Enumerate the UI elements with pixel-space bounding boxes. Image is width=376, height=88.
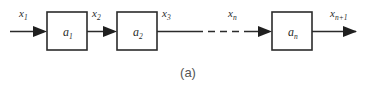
figure-caption: (a) bbox=[180, 65, 196, 80]
arrowhead-into-block-n bbox=[258, 26, 272, 37]
arrowhead-into-block-2 bbox=[103, 26, 117, 37]
signal-label-xn-sub: n bbox=[233, 13, 237, 22]
diagram-canvas: a1 a2 an x1 x2 x3 xn xn+1 (a) bbox=[0, 0, 376, 88]
signal-label-xn1: xn+1 bbox=[329, 7, 347, 22]
arrowhead-into-block-1 bbox=[33, 26, 47, 37]
block-label-n-sub: n bbox=[294, 32, 298, 41]
block-label-2-sub: 2 bbox=[139, 32, 143, 41]
signal-label-x3-sub: 3 bbox=[166, 13, 171, 22]
signal-label-x2-sub: 2 bbox=[97, 13, 101, 22]
signal-label-xn1-sub: n+1 bbox=[335, 13, 348, 22]
signal-label-x1: x1 bbox=[18, 7, 28, 22]
arrowhead-output bbox=[343, 26, 357, 37]
block-label-1-sub: 1 bbox=[69, 32, 73, 41]
signal-label-xn: xn bbox=[227, 7, 237, 22]
signal-label-x3: x3 bbox=[161, 7, 171, 22]
signal-label-x2: x2 bbox=[91, 7, 101, 22]
block-diagram-figure: a1 a2 an x1 x2 x3 xn xn+1 (a) bbox=[0, 0, 376, 88]
signal-label-x1-sub: 1 bbox=[24, 13, 28, 22]
